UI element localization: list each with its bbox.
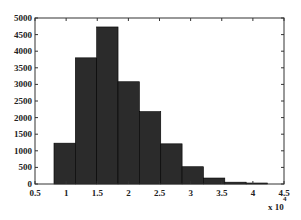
y-tick-label: 2500: [14, 96, 33, 106]
histogram-bar: [161, 144, 182, 184]
x-tick-label: 3.5: [216, 188, 228, 198]
histogram-bar: [118, 82, 139, 184]
x-tick-label: 1: [64, 188, 69, 198]
y-tick-label: 2000: [14, 113, 33, 123]
y-tick-label: 1000: [14, 146, 33, 156]
x-tick-label: 4: [251, 188, 256, 198]
x-tick-label: 0.5: [29, 188, 41, 198]
x-multiplier-label: x 10: [268, 202, 284, 212]
x-multiplier-exponent: 4: [283, 195, 287, 203]
y-tick-label: 5000: [14, 13, 33, 23]
y-tick-label: 4500: [14, 30, 33, 40]
histogram-bar: [139, 112, 160, 184]
histogram-bar: [75, 58, 96, 184]
histogram-bars: [54, 27, 268, 184]
y-tick-label: 0: [28, 179, 33, 189]
y-tick-label: 1500: [14, 129, 33, 139]
histogram-bar: [54, 143, 75, 184]
y-tick-label: 500: [19, 162, 33, 172]
x-tick-label: 2: [126, 188, 131, 198]
x-tick-label: 2.5: [154, 188, 166, 198]
histogram-bar: [97, 27, 118, 184]
y-tick-label: 3000: [14, 79, 33, 89]
histogram-bar: [182, 167, 203, 184]
y-tick-label: 4000: [14, 46, 33, 56]
histogram-chart: 0.511.522.533.544.5 05001000150020002500…: [0, 0, 301, 220]
x-tick-label: 3: [188, 188, 193, 198]
x-tick-label: 1.5: [92, 188, 104, 198]
y-tick-label: 3500: [14, 63, 33, 73]
